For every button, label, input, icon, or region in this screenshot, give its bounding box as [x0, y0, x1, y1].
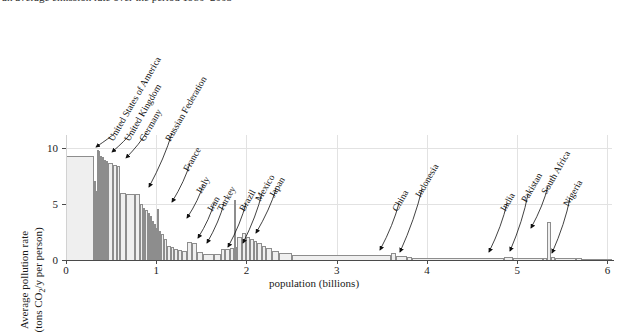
y-tick [62, 204, 66, 205]
x-tick-label: 4 [424, 264, 430, 276]
gridline-vertical [607, 135, 608, 260]
y-tick [62, 260, 66, 261]
y-tick-label: 0 [38, 254, 58, 266]
bar [272, 251, 279, 260]
bar-south-africa [547, 222, 551, 260]
gridline-vertical [427, 135, 428, 260]
bar [66, 156, 94, 260]
bar [126, 194, 135, 260]
bar [279, 253, 292, 260]
x-tick-label: 1 [153, 264, 159, 276]
gridline-horizontal [66, 148, 612, 149]
x-tick-label: 6 [605, 264, 611, 276]
y-tick-label: 5 [38, 198, 58, 210]
y-axis-title: Average pollution rate (tons CO2/y per p… [10, 115, 56, 265]
annotation-russian-federation: Russian Federation [163, 75, 208, 143]
x-tick-label: 3 [334, 264, 340, 276]
x-tick-label: 0 [63, 264, 69, 276]
x-tick-label: 2 [244, 264, 250, 276]
x-axis-title: population (billions) [0, 277, 628, 289]
y-tick [62, 148, 66, 149]
y-tick-label: 10 [38, 142, 58, 154]
x-tick-label: 5 [514, 264, 520, 276]
gridline-horizontal [66, 204, 612, 205]
gridline-vertical [337, 135, 338, 260]
gridline-vertical [517, 135, 518, 260]
y-axis-line [66, 135, 67, 260]
x-axis-line [66, 260, 614, 261]
figure-caption: an average emission rate over the period… [2, 0, 422, 3]
